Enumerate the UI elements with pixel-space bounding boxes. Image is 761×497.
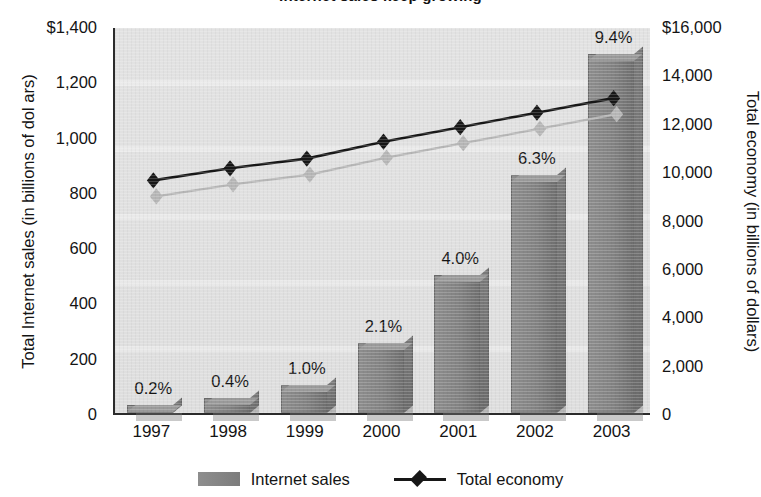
y-axis-right-tick-label: 8,000 xyxy=(662,213,703,230)
line-series xyxy=(115,28,652,415)
line-marker-shadow xyxy=(303,166,316,182)
y-axis-left-tick-label: 600 xyxy=(69,240,97,257)
y-axis-left-ticks: $1,4001,2001,0008006004002000 xyxy=(0,0,107,497)
line-marker-shadow xyxy=(150,188,163,204)
line-marker-shadow xyxy=(610,106,623,122)
y-axis-left-tick-label: 1,200 xyxy=(56,74,97,91)
x-axis-tick-label: 2003 xyxy=(570,422,654,442)
legend-bar-label: Internet sales xyxy=(251,470,350,489)
y-axis-right-tick-label: 12,000 xyxy=(662,116,712,133)
y-axis-right-tick-label: 4,000 xyxy=(662,309,703,326)
chart-title-text: Internet sales keep growing xyxy=(0,0,761,4)
line-marker-diamond xyxy=(377,134,390,150)
y-axis-left-tick-label: $1,400 xyxy=(47,19,97,36)
y-axis-right-tick-label: 14,000 xyxy=(662,67,712,84)
legend-item-internet-sales: Internet sales xyxy=(198,470,350,489)
x-axis-tick-label: 1999 xyxy=(263,422,347,442)
y-axis-right-ticks: $16,00014,00012,00010,0008,0006,0004,000… xyxy=(656,0,761,497)
y-axis-left-tick-label: 1,000 xyxy=(56,130,97,147)
x-axis-tick-label: 2000 xyxy=(340,422,424,442)
legend-line-diamond-icon xyxy=(394,472,446,486)
line-marker-shadow xyxy=(380,150,393,166)
line-marker-diamond xyxy=(147,172,160,188)
legend-item-total-economy: Total economy xyxy=(394,470,563,489)
y-axis-left-tick-label: 200 xyxy=(69,351,97,368)
plot-area: 0.2%0.4%1.0%2.1%4.0%6.3%9.4% xyxy=(113,28,650,415)
x-axis-tick-label: 2002 xyxy=(493,422,577,442)
line-marker-shadow xyxy=(533,121,546,137)
line-marker-shadow xyxy=(457,135,470,151)
y-axis-left-tick-label: 400 xyxy=(69,295,97,312)
legend-bar-swatch-icon xyxy=(198,472,240,486)
x-axis-ticks: 1997199819992000200120022003 xyxy=(113,422,650,450)
chart-container: Internet sales keep growing Total Intern… xyxy=(0,0,761,497)
y-axis-right-tick-label: 10,000 xyxy=(662,164,712,181)
y-axis-right-tick-label: 2,000 xyxy=(662,358,703,375)
chart-legend: Internet sales Total economy xyxy=(0,466,761,492)
x-axis-tick-label: 2001 xyxy=(416,422,500,442)
line-marker-diamond xyxy=(300,150,313,166)
line-marker-diamond xyxy=(530,105,543,121)
x-axis-tick-label: 1998 xyxy=(186,422,270,442)
y-axis-left-tick-label: 0 xyxy=(88,406,97,423)
line-marker-diamond xyxy=(454,119,467,135)
y-axis-right-tick-label: 0 xyxy=(662,406,671,423)
line-marker-shadow xyxy=(227,176,240,192)
y-axis-right-tick-label: $16,000 xyxy=(662,19,722,36)
chart-title-clipped: Internet sales keep growing xyxy=(0,0,761,10)
y-axis-left-tick-label: 800 xyxy=(69,185,97,202)
y-axis-right-tick-label: 6,000 xyxy=(662,261,703,278)
line-marker-diamond xyxy=(607,90,620,106)
x-axis-tick-label: 1997 xyxy=(109,422,193,442)
line-marker-diamond xyxy=(224,160,237,176)
legend-line-label: Total economy xyxy=(457,470,563,489)
